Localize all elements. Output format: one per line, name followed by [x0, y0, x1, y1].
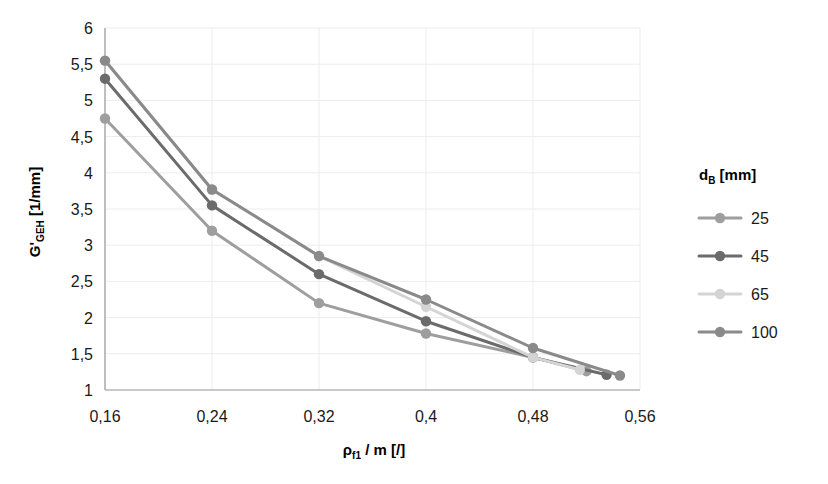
x-axis-title-base: ρ — [343, 441, 352, 458]
data-point — [207, 200, 217, 210]
line-chart: 11,522,533,544,555,56 0,160,240,320,40,4… — [0, 0, 828, 484]
y-axis-tick-label: 4,5 — [71, 129, 93, 146]
y-axis-title-base: G' — [26, 242, 43, 257]
data-point — [100, 113, 110, 123]
x-axis-tick-label: 0,4 — [415, 408, 437, 425]
y-axis-tick-label: 2,5 — [71, 273, 93, 290]
x-axis-tick-label: 0,48 — [517, 408, 548, 425]
legend-item-label-65: 65 — [751, 286, 769, 303]
x-axis-tick-label: 0,56 — [624, 408, 655, 425]
y-axis-title-subscript: GEH — [35, 220, 46, 242]
y-axis-title-rest: [1/mm] — [26, 167, 43, 220]
y-axis-tick-label: 1,5 — [71, 346, 93, 363]
data-point — [314, 298, 324, 308]
x-axis-title-rest: / m [/] — [361, 441, 405, 458]
data-point — [314, 251, 324, 261]
data-point — [314, 269, 324, 279]
data-point — [528, 352, 538, 362]
data-point — [207, 184, 217, 194]
data-point — [207, 226, 217, 236]
y-axis-tick-label: 1 — [84, 382, 93, 399]
data-point — [575, 365, 585, 375]
data-point — [100, 73, 110, 83]
legend-swatch-marker-25 — [715, 213, 725, 223]
y-axis-tick-label: 6 — [84, 20, 93, 37]
y-axis-tick-label: 5 — [84, 92, 93, 109]
legend-swatch-marker-65 — [715, 289, 725, 299]
y-axis-tick-label: 5,5 — [71, 56, 93, 73]
legend-swatch-marker-100 — [715, 327, 725, 337]
x-axis-tick-label: 0,16 — [89, 408, 120, 425]
y-axis-tick-label: 3,5 — [71, 201, 93, 218]
x-axis-tick-label: 0,32 — [303, 408, 334, 425]
y-axis-tick-label: 4 — [84, 165, 93, 182]
data-point — [100, 55, 110, 65]
data-point — [421, 316, 431, 326]
legend-swatch-marker-45 — [715, 251, 725, 261]
legend-item-label-100: 100 — [751, 324, 778, 341]
data-point — [421, 328, 431, 338]
legend-item-label-45: 45 — [751, 248, 769, 265]
y-axis-tick-label: 3 — [84, 237, 93, 254]
data-point — [615, 370, 625, 380]
chart-figure: 11,522,533,544,555,56 0,160,240,320,40,4… — [0, 0, 828, 484]
data-point — [421, 294, 431, 304]
y-axis-tick-label: 2 — [84, 310, 93, 327]
data-point — [528, 343, 538, 353]
x-axis-tick-label: 0,24 — [196, 408, 227, 425]
legend-item-label-25: 25 — [751, 210, 769, 227]
